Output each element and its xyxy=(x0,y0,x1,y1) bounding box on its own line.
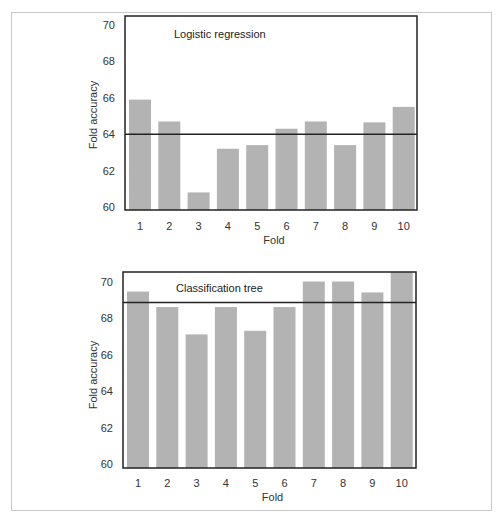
bar-fold-9 xyxy=(361,292,383,468)
x-tick-label: 2 xyxy=(164,477,170,489)
bar-fold-4 xyxy=(217,149,239,210)
x-tick-label: 8 xyxy=(342,220,348,232)
x-tick-label: 1 xyxy=(137,220,143,232)
x-tick-label: 5 xyxy=(254,220,260,232)
x-axis-ticks: 12345678910 xyxy=(137,220,410,232)
bar-fold-10 xyxy=(393,107,415,210)
bar-fold-4 xyxy=(215,307,237,468)
x-tick-label: 10 xyxy=(396,477,408,489)
y-tick-label: 66 xyxy=(101,349,113,361)
y-tick-label: 68 xyxy=(101,312,113,324)
y-tick-label: 64 xyxy=(101,385,113,397)
y-axis-ticks: 606264666870 xyxy=(101,276,113,471)
figure: Logistic regression 606264666870 1234567… xyxy=(0,0,503,522)
x-tick-label: 9 xyxy=(369,477,375,489)
x-tick-label: 6 xyxy=(281,477,287,489)
y-tick-label: 60 xyxy=(103,201,115,213)
x-tick-label: 4 xyxy=(223,477,229,489)
bars xyxy=(129,100,415,210)
x-tick-label: 2 xyxy=(166,220,172,232)
x-tick-label: 8 xyxy=(340,477,346,489)
x-tick-label: 9 xyxy=(371,220,377,232)
y-tick-label: 62 xyxy=(101,422,113,434)
x-tick-label: 1 xyxy=(135,477,141,489)
y-axis-label: Fold accuracy xyxy=(87,340,99,409)
x-axis-label: Fold xyxy=(262,491,283,503)
y-axis-ticks: 606264666870 xyxy=(103,19,115,213)
bar-fold-1 xyxy=(127,292,149,468)
y-tick-label: 70 xyxy=(101,276,113,288)
bar-fold-9 xyxy=(363,122,385,210)
bar-fold-10 xyxy=(391,272,413,468)
bar-fold-5 xyxy=(246,145,268,210)
bars xyxy=(127,272,413,468)
chart-title: Classification tree xyxy=(176,282,263,294)
chart-title: Logistic regression xyxy=(174,28,266,40)
x-tick-label: 5 xyxy=(252,477,258,489)
logistic-regression-chart: Logistic regression 606264666870 1234567… xyxy=(87,16,417,246)
x-axis-ticks: 12345678910 xyxy=(135,477,408,489)
bar-fold-2 xyxy=(156,307,178,468)
bar-fold-3 xyxy=(188,192,210,210)
bar-fold-6 xyxy=(276,129,298,210)
y-tick-label: 68 xyxy=(103,55,115,67)
bar-fold-7 xyxy=(303,282,325,469)
y-tick-label: 62 xyxy=(103,165,115,177)
y-tick-label: 70 xyxy=(103,19,115,31)
y-tick-label: 64 xyxy=(103,128,115,140)
x-tick-label: 6 xyxy=(283,220,289,232)
y-tick-label: 60 xyxy=(101,458,113,470)
x-axis-label: Fold xyxy=(263,234,284,246)
x-tick-label: 7 xyxy=(313,220,319,232)
bar-fold-8 xyxy=(332,282,354,469)
x-tick-label: 10 xyxy=(398,220,410,232)
x-tick-label: 4 xyxy=(225,220,231,232)
y-axis-label: Fold accuracy xyxy=(87,80,99,149)
bar-fold-3 xyxy=(186,334,208,468)
y-tick-label: 66 xyxy=(103,92,115,104)
bar-fold-5 xyxy=(244,331,266,468)
bar-fold-6 xyxy=(274,307,296,468)
x-tick-label: 3 xyxy=(194,477,200,489)
classification-tree-chart: Classification tree 606264666870 1234567… xyxy=(87,272,416,503)
bar-fold-1 xyxy=(129,100,151,210)
x-tick-label: 3 xyxy=(196,220,202,232)
bar-fold-8 xyxy=(334,145,356,210)
x-tick-label: 7 xyxy=(311,477,317,489)
